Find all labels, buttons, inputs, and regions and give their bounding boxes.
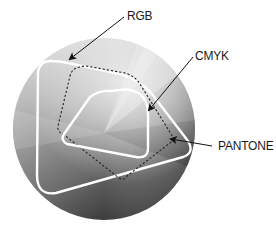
gamut-diagram — [0, 0, 276, 226]
cmyk-label: CMYK — [195, 50, 229, 62]
rgb-label: RGB — [127, 10, 152, 22]
pantone-label: PANTONE — [218, 140, 274, 152]
